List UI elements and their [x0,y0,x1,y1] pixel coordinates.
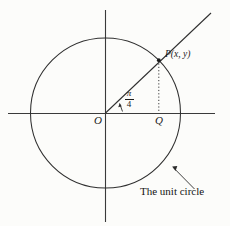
angle-numerator: π [122,89,136,99]
angle-value-label: π 4 [122,89,136,109]
angle-denominator: 4 [122,100,136,110]
unit-circle-figure: O Q P(x, y) π 4 The unit circle [0,0,230,226]
figure-caption: The unit circle [140,186,204,197]
point-p-marker [157,58,161,62]
origin-label: O [94,115,102,126]
foot-point-label: Q [155,115,163,126]
point-p-label: P(x, y) [165,50,190,60]
